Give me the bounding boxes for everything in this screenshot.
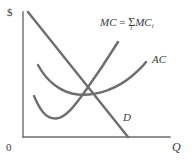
average-cost-curve	[38, 62, 146, 95]
sigma-index-text: i	[130, 25, 132, 31]
origin-label: 0	[6, 142, 12, 153]
mc-term-text: MC	[135, 16, 152, 28]
summation-icon: Σi	[128, 16, 135, 28]
marginal-cost-label: MC = ΣiMCi	[100, 16, 154, 30]
economics-cost-curves-figure: $ 0 Q MC = ΣiMCi AC D	[0, 0, 192, 164]
demand-label: D	[123, 112, 131, 123]
average-cost-label: AC	[152, 54, 166, 65]
mc-prefix-text: MC	[100, 16, 117, 28]
mc-term-subscript-text: i	[152, 22, 154, 30]
chart-canvas	[0, 0, 192, 164]
mc-equals-text: =	[117, 16, 129, 28]
x-axis-label: Q	[172, 141, 181, 153]
y-axis-label: $	[7, 7, 13, 18]
